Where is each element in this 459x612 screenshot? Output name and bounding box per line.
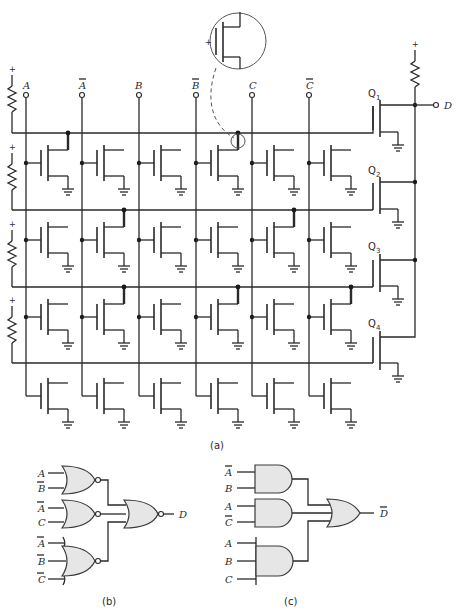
nor-gate-2: [62, 500, 95, 528]
column-label: C: [249, 80, 257, 91]
output-label: D: [443, 100, 452, 111]
input-terminal[interactable]: [24, 93, 29, 98]
svg-text:A: A: [224, 467, 232, 478]
column-input-a[interactable]: A: [22, 80, 30, 98]
transistor-cell: [194, 222, 244, 272]
transistor-cell: [137, 299, 187, 349]
transistor-cell: [26, 363, 74, 428]
svg-text:A: A: [37, 538, 45, 549]
column-label: C: [306, 80, 314, 91]
callout-magnifier: +: [205, 12, 266, 148]
cell-row-2: [24, 222, 357, 272]
svg-text:Q: Q: [368, 165, 376, 176]
column-label: B: [134, 80, 142, 91]
svg-text:+: +: [412, 40, 419, 49]
figure: A A B B C: [0, 0, 459, 612]
output-transistor-q2: Q 2: [368, 165, 417, 228]
output-transistor-q3: Q 3: [368, 241, 417, 305]
transistor-cell: [250, 145, 300, 195]
svg-text:B: B: [224, 483, 232, 494]
svg-text:4: 4: [376, 324, 381, 332]
and-gate-1: [255, 465, 292, 493]
caption-a: (a): [210, 440, 224, 451]
svg-text:Q: Q: [368, 241, 376, 252]
svg-text:Q: Q: [368, 318, 376, 329]
svg-text:A: A: [224, 501, 232, 512]
cell-row-4: [26, 363, 357, 428]
svg-text:+: +: [9, 220, 16, 229]
nor-gate-3: [62, 546, 95, 576]
pullup-resistor-row-1: +: [8, 65, 372, 133]
column-input-c[interactable]: C: [249, 80, 257, 98]
svg-text:C: C: [38, 517, 46, 528]
input-terminal[interactable]: [137, 93, 142, 98]
output-stage: + D Q 1: [368, 40, 452, 382]
transistor-cell: [24, 222, 74, 272]
and-gate-2: [255, 499, 292, 527]
svg-text:+: +: [9, 65, 16, 74]
transistor-cell: [309, 363, 357, 428]
input-terminal[interactable]: [80, 93, 85, 98]
svg-text:C: C: [38, 574, 46, 585]
svg-text:B: B: [37, 483, 45, 494]
svg-text:Q: Q: [368, 88, 376, 99]
column-label: A: [22, 80, 30, 91]
input-terminal[interactable]: [250, 93, 255, 98]
transistor-cell: [194, 299, 244, 349]
input-terminal[interactable]: [307, 93, 312, 98]
column-input-c-bar[interactable]: C: [306, 79, 314, 98]
svg-text:+: +: [9, 296, 16, 305]
transistor-cell: [80, 145, 130, 195]
svg-text:C: C: [225, 574, 233, 585]
svg-text:A: A: [37, 503, 45, 514]
transistor-cell: [194, 145, 244, 195]
svg-text:A: A: [37, 468, 45, 479]
transistor-cell: [196, 363, 244, 428]
and-gate-3: [256, 546, 293, 576]
column-label: A: [78, 80, 86, 91]
input-terminal[interactable]: [194, 93, 199, 98]
column-input-b[interactable]: B: [134, 80, 142, 98]
cell-row-3: [24, 299, 357, 349]
svg-text:B: B: [37, 556, 45, 567]
transistor-cell: [139, 363, 187, 428]
transistor-cell: [24, 299, 74, 349]
nor-nor-circuit: A B A C A B C: [37, 466, 187, 607]
svg-text:B: B: [224, 556, 232, 567]
programmed-links: [66, 131, 354, 304]
transistor-cell: [250, 299, 300, 349]
transistor-cell: [82, 363, 130, 428]
column-label: B: [191, 80, 199, 91]
and-or-circuit: A B A C A B C D (c): [224, 465, 388, 607]
svg-text:C: C: [225, 517, 233, 528]
output-d-label: D: [178, 509, 187, 520]
output-transistor-q1: Q 1: [368, 88, 415, 151]
transistor-cell: [307, 299, 357, 349]
svg-text:3: 3: [376, 247, 380, 255]
transistor-cell: [307, 145, 357, 195]
output-terminal-d[interactable]: [434, 103, 439, 108]
transistor-cell: [250, 222, 300, 272]
transistor-cell: [137, 222, 187, 272]
column-inputs: A A B B C: [22, 79, 314, 98]
transistor-array: A A B B C: [8, 12, 452, 451]
column-input-a-bar[interactable]: A: [78, 79, 86, 98]
cell-row-1: [24, 145, 357, 195]
svg-text:+: +: [9, 143, 16, 152]
output-d-bar-label: D: [379, 508, 388, 519]
transistor-cell: [24, 145, 74, 195]
transistor-cell: [80, 299, 130, 349]
caption-c: (c): [284, 596, 297, 607]
or-gate-output: [327, 499, 360, 527]
transistor-cell: [80, 222, 130, 272]
caption-b: (b): [102, 596, 116, 607]
column-input-b-bar[interactable]: B: [191, 79, 199, 98]
transistor-cell: [137, 145, 187, 195]
output-transistor-q4: Q 4: [368, 318, 415, 382]
transistor-cell: [252, 363, 300, 428]
row-pullups: + + +: [8, 65, 372, 363]
transistor-cell: [307, 222, 357, 272]
svg-text:A: A: [224, 538, 232, 549]
svg-text:+: +: [205, 38, 212, 47]
nor-gate-output: [124, 500, 158, 528]
